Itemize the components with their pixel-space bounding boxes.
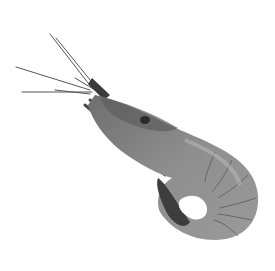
shrimp-photo [0,0,275,271]
shrimp-illustration [0,0,275,271]
eye [140,116,150,124]
antennae [16,34,95,94]
